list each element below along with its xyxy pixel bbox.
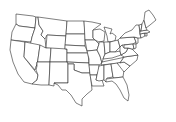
state-nd [66, 21, 85, 34]
state-mi [104, 27, 116, 42]
state-wi [93, 29, 105, 42]
us-states-outline [0, 0, 176, 122]
us-map: United States outline map [0, 0, 176, 122]
state-sd [65, 34, 85, 46]
state-ia [85, 40, 99, 51]
state-me [144, 10, 156, 28]
state-ks [67, 53, 89, 63]
state-ne [65, 45, 88, 53]
state-ny [120, 25, 141, 38]
state-md [124, 44, 134, 49]
state-co [50, 48, 67, 62]
state-fl [106, 77, 129, 101]
state-nm [49, 62, 68, 86]
state-ri [145, 33, 147, 36]
